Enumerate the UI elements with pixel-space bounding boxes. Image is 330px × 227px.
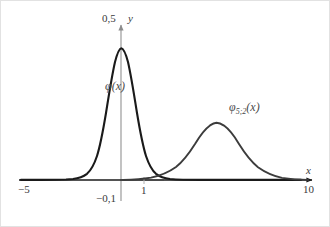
- curve-label-phi-5-2: φ5;2(x): [229, 100, 260, 116]
- y-axis-name-label: y: [128, 12, 133, 24]
- curve-label-phi-5-2-base: φ: [229, 100, 236, 114]
- y-axis-min-label: −0,1: [96, 192, 116, 204]
- figure-frame: 0,5 y x −5 1 10 −0,1 φ(x) φ5;2(x): [0, 0, 330, 227]
- y-axis-max-label: 0,5: [102, 12, 116, 24]
- gaussian-plot: [1, 1, 330, 227]
- curve-label-phi-5-2-subscript: 5;2: [236, 107, 247, 116]
- curve-phi-5-2: [123, 123, 308, 180]
- curve-label-phi: φ(x): [105, 79, 125, 94]
- x-tick-label-10: 10: [303, 183, 314, 195]
- x-axis-name-label: x: [306, 164, 311, 176]
- x-tick-label-1: 1: [141, 184, 147, 196]
- curve-label-phi-5-2-tail: (x): [246, 100, 259, 114]
- x-tick-label-minus-5: −5: [18, 183, 30, 195]
